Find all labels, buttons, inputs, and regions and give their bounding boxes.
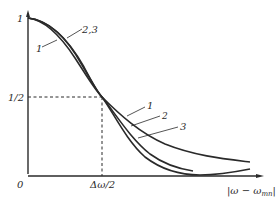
y-tick-one: 1 [17, 13, 23, 24]
x-axis-label-main: |ω − ω [227, 185, 261, 197]
y-axis-arrow-icon [26, 10, 30, 17]
curve-1 [28, 18, 250, 162]
leader-curve-1-top [42, 40, 57, 47]
curve-1-label-bottom: 1 [147, 100, 153, 111]
label-leaders [42, 29, 178, 138]
origin-label: 0 [17, 179, 24, 190]
curve-23-label-top: 2,3 [81, 24, 98, 35]
x-axis-label-sub: mn [261, 190, 273, 198]
x-axis-label: |ω − ωmn| [227, 185, 276, 198]
x-axis-label-close: | [273, 185, 276, 197]
curve-1-label-top: 1 [36, 43, 42, 54]
svg-text:|ω − ωmn|: |ω − ωmn| [227, 185, 276, 198]
x-tick-half-width: Δω/2 [89, 179, 115, 190]
curve-3-label-bottom: 3 [180, 121, 186, 132]
line-chart: 1 1/2 0 Δω/2 1 2,3 1 2 3 |ω − ωmn| [0, 0, 278, 204]
leader-curve-23-top [67, 29, 82, 38]
leader-curve-1-bottom [127, 107, 145, 116]
y-tick-half: 1/2 [8, 92, 24, 103]
x-axis-arrow-icon [256, 174, 264, 178]
curve-2-label-bottom: 2 [161, 111, 168, 121]
guide-lines [28, 97, 102, 176]
leader-curve-2-bottom [131, 116, 160, 126]
curve-2 [28, 18, 193, 171]
